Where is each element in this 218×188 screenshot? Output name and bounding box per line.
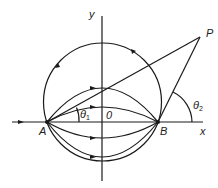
theta1-label: θ1 — [80, 109, 90, 121]
point-b-dot — [156, 120, 160, 124]
theta2-arc — [173, 92, 192, 122]
y-axis-label: y — [89, 9, 95, 20]
x-axis-label: x — [200, 126, 206, 137]
theta2-label: θ2 — [193, 100, 203, 112]
arrow-icon — [90, 136, 96, 140]
origin-label: 0 — [106, 110, 112, 121]
field-lines-diagram: y x A B P 0 θ1 θ2 — [0, 0, 218, 188]
point-a-label: A — [39, 126, 46, 137]
point-p-label: P — [206, 28, 213, 39]
arrow-icon — [18, 120, 24, 124]
point-b-label: B — [160, 126, 167, 137]
arrow-icon — [90, 105, 96, 109]
theta2-subscript: 2 — [199, 105, 203, 112]
diagram-graphics — [0, 0, 218, 188]
point-a-dot — [45, 120, 49, 124]
theta1-subscript: 1 — [86, 114, 90, 121]
